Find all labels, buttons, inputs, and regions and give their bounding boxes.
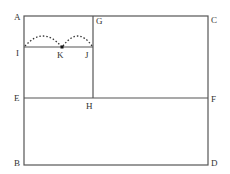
label-i: I — [16, 48, 19, 58]
arc-ik — [25, 36, 61, 46]
label-b: B — [14, 158, 20, 168]
label-e: E — [14, 93, 20, 103]
label-k: K — [57, 50, 64, 60]
outer-rectangle — [24, 16, 208, 165]
point-k-marker — [61, 46, 64, 49]
arc-kj — [63, 36, 92, 46]
label-j: J — [85, 50, 89, 60]
label-h: H — [86, 101, 93, 111]
label-c: C — [211, 15, 217, 25]
label-f: F — [211, 94, 216, 104]
label-a: A — [14, 12, 21, 22]
label-g: G — [96, 16, 103, 26]
label-d: D — [211, 158, 218, 168]
geometry-diagram: A G C I K J E H F B D — [0, 0, 230, 174]
